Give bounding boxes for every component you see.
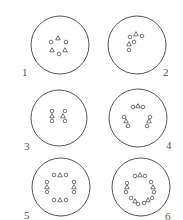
triangle-marker [124,119,129,123]
triangle-marker [45,185,50,189]
circle-marker [142,201,146,205]
triangle-marker [50,48,55,52]
circle-marker [150,196,154,200]
circle-marker [63,119,67,123]
dish-outline [31,90,87,146]
circle-marker [148,115,152,119]
triangle-marker [72,185,77,189]
circle-marker [52,198,56,202]
circle-marker [45,180,49,184]
circle-marker [126,124,130,128]
panel-2 [108,16,166,74]
circle-marker [64,40,68,44]
panel-label-2: 2 [163,67,169,78]
panel-1 [31,16,89,74]
circle-marker [45,190,49,194]
circle-marker [64,173,68,177]
triangle-marker [127,42,132,46]
circle-marker [49,40,53,44]
circle-marker [128,35,132,39]
dish-outline [112,158,170,216]
dish-outline [109,89,167,147]
triangle-marker [147,119,152,123]
triangle-marker [61,114,66,118]
circle-marker [152,190,156,194]
triangle-marker [134,32,139,36]
circle-marker [124,190,128,194]
dish-outline [31,16,89,74]
dish-diagram: 1 2 3 4 5 6 [0,0,183,220]
panel-label-1: 1 [22,67,28,78]
triangle-marker [58,198,63,202]
circle-marker [149,180,153,184]
circle-marker [133,174,137,178]
circle-marker [50,119,54,123]
circle-marker [136,202,140,206]
panel-5 [32,158,90,216]
triangle-marker [146,198,151,202]
circle-marker [132,40,136,44]
panel-3 [31,90,87,146]
circle-marker [52,173,56,177]
panel-label-6: 6 [165,211,171,220]
circle-marker [64,198,68,202]
triangle-marker [50,114,55,118]
circle-marker [131,105,135,109]
triangle-marker [151,185,156,189]
triangle-marker [138,173,143,177]
triangle-marker [125,185,130,189]
dish-outline [108,16,166,74]
triangle-marker [136,104,141,108]
triangle-marker [63,48,68,52]
triangle-marker [133,199,138,203]
panel-6 [112,158,170,216]
circle-marker [143,174,147,178]
circle-marker [140,34,144,38]
panel-label-3: 3 [24,141,30,152]
circle-marker [50,109,54,113]
circle-marker [141,105,145,109]
circle-marker [129,196,133,200]
circle-marker [127,48,131,52]
circle-marker [57,52,61,56]
circle-marker [122,115,126,119]
panel-label-4: 4 [166,140,172,151]
triangle-marker [56,36,61,40]
panel-label-5: 5 [24,210,30,220]
diagram-canvas [0,0,183,220]
circle-marker [145,124,149,128]
circle-marker [63,109,67,113]
triangle-marker [58,173,63,177]
panel-4 [109,89,167,147]
circle-marker [72,190,76,194]
circle-marker [72,180,76,184]
dish-outline [32,158,90,216]
